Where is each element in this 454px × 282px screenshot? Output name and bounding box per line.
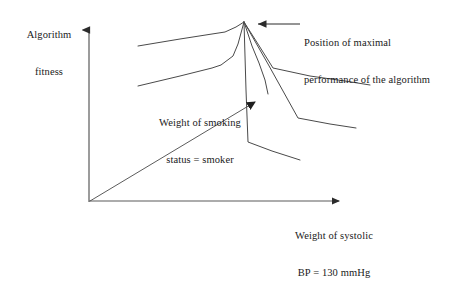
peak-annotation-line1: Position of maximal <box>304 37 452 49</box>
y-axis-label-line1: Algorithm <box>14 29 84 41</box>
peak-annotation-line2: performance of the algorithm <box>304 74 452 86</box>
smoking-annotation-line2: status = smoker <box>148 154 252 166</box>
x-axis-label: Weight of systolic BP = 130 mmHg <box>282 205 386 282</box>
x-axis-label-line1: Weight of systolic <box>282 230 386 242</box>
peak-annotation-label: Position of maximal performance of the a… <box>304 12 452 111</box>
y-axis-label-line2: fitness <box>14 66 84 78</box>
smoking-annotation-line1: Weight of smoking <box>148 117 252 129</box>
curve-upper-left-ridge <box>138 22 244 46</box>
x-axis-label-line2: BP = 130 mmHg <box>282 267 386 279</box>
curve-right-branch-steep <box>244 22 300 160</box>
curve-lower-left-ridge <box>138 22 244 86</box>
smoking-annotation-label: Weight of smoking status = smoker <box>148 92 252 191</box>
y-axis-label: Algorithm fitness <box>14 4 84 103</box>
